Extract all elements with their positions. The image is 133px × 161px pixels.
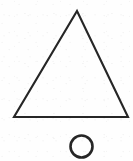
triangle-shape bbox=[14, 11, 128, 117]
circle-shape bbox=[71, 136, 93, 158]
figure-canvas bbox=[0, 0, 133, 161]
shapes-drawing bbox=[0, 0, 133, 161]
